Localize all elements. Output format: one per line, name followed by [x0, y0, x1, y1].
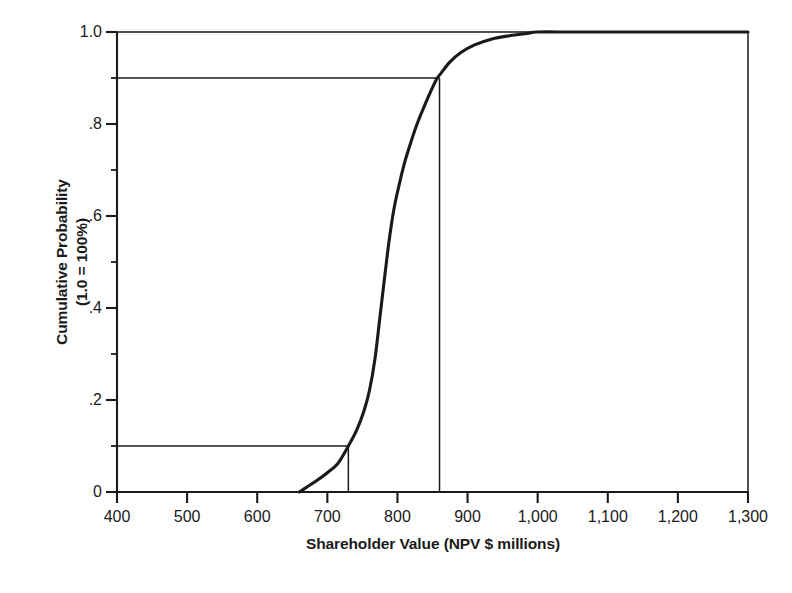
axis-frame	[117, 32, 748, 492]
y-axis-ticks	[106, 32, 117, 492]
bottom-caption	[12, 574, 712, 590]
x-axis-ticks	[117, 492, 748, 503]
chart-figure: Cumulative Probability (1.0 = 100%) 0.2.…	[0, 0, 792, 593]
plot-area	[0, 0, 792, 593]
reference-lines	[117, 78, 440, 492]
x-axis-title: Shareholder Value (NPV $ millions)	[118, 535, 748, 553]
cumulative-probability-curve	[299, 32, 748, 492]
